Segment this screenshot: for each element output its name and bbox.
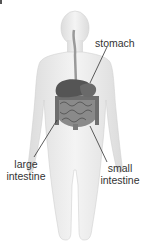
small-intestine-label: small intestine	[94, 162, 146, 186]
small-intestine-label-line1: small	[94, 162, 146, 174]
stomach-label-text: stomach	[95, 37, 135, 49]
large-intestine-label: large intestine	[2, 158, 50, 182]
stomach-label: stomach	[95, 37, 135, 49]
large-intestine-label-line1: large	[2, 158, 50, 170]
small-intestine-label-line2: intestine	[94, 174, 146, 186]
large-intestine-label-line2: intestine	[2, 170, 50, 182]
